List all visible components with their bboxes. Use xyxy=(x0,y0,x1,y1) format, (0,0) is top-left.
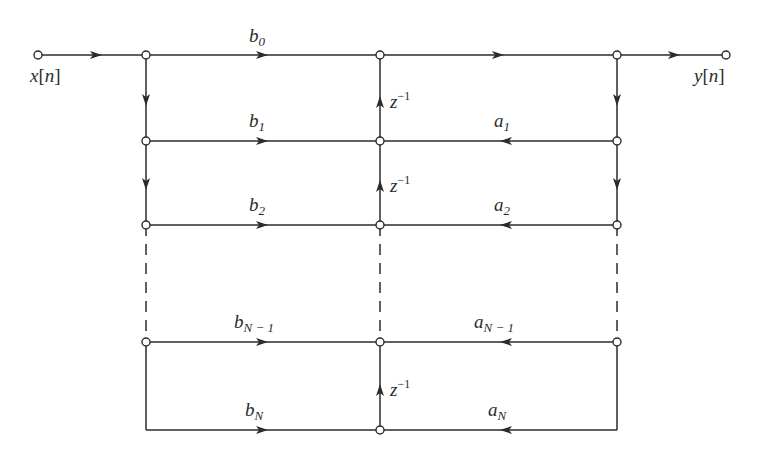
coeff-b0: b0 xyxy=(249,26,265,48)
signal-flow-graph xyxy=(0,0,771,457)
coeff-b2: b2 xyxy=(249,195,265,217)
coeff-bN-1: bN − 1 xyxy=(234,312,274,334)
node xyxy=(376,338,384,346)
coeff-b1: b1 xyxy=(249,111,265,133)
node xyxy=(376,221,384,229)
node xyxy=(142,221,150,229)
input-label: x[n] xyxy=(30,66,61,85)
delay-label-2: z−1 xyxy=(390,174,410,195)
output-node xyxy=(722,51,730,59)
coeff-a1: a1 xyxy=(494,111,510,133)
coeff-bN: bN xyxy=(245,400,263,422)
arrow-icons xyxy=(90,51,680,434)
coeff-aN: aN xyxy=(488,400,506,422)
node xyxy=(613,51,621,59)
node xyxy=(142,137,150,145)
node xyxy=(142,51,150,59)
input-node xyxy=(34,51,42,59)
node xyxy=(142,338,150,346)
output-label: y[n] xyxy=(694,66,725,85)
node xyxy=(376,426,384,434)
delay-label-N: z−1 xyxy=(390,378,410,399)
node xyxy=(613,338,621,346)
node xyxy=(613,221,621,229)
coeff-aN-1: aN − 1 xyxy=(474,312,514,334)
coeff-a2: a2 xyxy=(494,195,510,217)
node xyxy=(613,137,621,145)
delay-label-1: z−1 xyxy=(390,90,410,111)
node xyxy=(376,137,384,145)
node xyxy=(376,51,384,59)
